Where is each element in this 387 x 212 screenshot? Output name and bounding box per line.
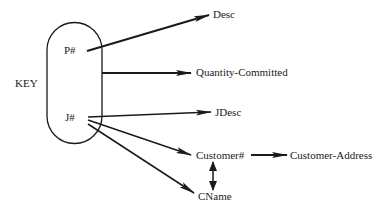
node-jdesc: JDesc xyxy=(215,106,241,118)
node-cname: CName xyxy=(198,190,232,202)
diagram-graphics xyxy=(0,0,387,212)
dependency-diagram: KEY P# J# Desc Quantity-Committed JDesc … xyxy=(0,0,387,212)
node-customer-num: Customer# xyxy=(196,149,244,161)
node-quantity-committed: Quantity-Committed xyxy=(196,66,288,78)
key-label: KEY xyxy=(15,77,38,89)
edge-j-cname xyxy=(88,124,194,193)
node-j-num: J# xyxy=(65,111,75,123)
node-p-num: P# xyxy=(64,44,76,56)
key-capsule-shape xyxy=(47,23,102,144)
edge-j-customer xyxy=(88,120,191,155)
node-desc: Desc xyxy=(213,8,235,20)
edge-j-jdesc xyxy=(88,112,211,117)
edge-p-desc xyxy=(87,15,209,51)
node-customer-address: Customer-Address xyxy=(290,149,372,161)
